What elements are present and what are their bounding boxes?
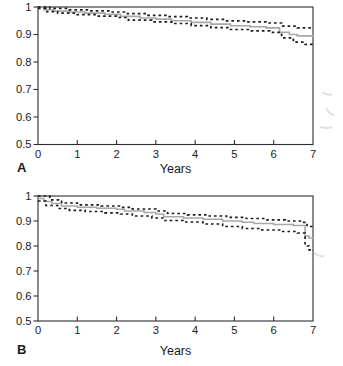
panel-a-xaxis-title: Years: [38, 162, 313, 176]
panel-b-y-tick-label: 0.5: [16, 315, 32, 327]
panel-a-x-tick-label: 5: [231, 148, 237, 160]
panel-b-x-tick-label: 5: [231, 324, 237, 336]
panel-b-y-tick-label: 0.8: [16, 240, 32, 252]
panel-b-survival-estimate-line: [38, 199, 313, 240]
panel-b-y-tick-label: 0.6: [16, 290, 32, 302]
panel-a-x-tick-label: 4: [192, 148, 198, 160]
panel-a-y-tick-label: 0.7: [16, 83, 32, 95]
panel-b-x-tick-label: 1: [74, 324, 80, 336]
panel-b-x-tick-label: 3: [153, 324, 159, 336]
panel-a-upper-confidence-limit-line: [38, 7, 313, 28]
panel-b-frame: [38, 196, 313, 321]
panel-b-y-tick-label: 1: [25, 190, 31, 202]
panel-b-y-tick-label: 0.9: [16, 215, 32, 227]
panel-a-x-tick-label: 6: [271, 148, 277, 160]
panel-a-y-tick-label: 0.6: [16, 111, 32, 123]
panel-a-x-tick-label: 1: [74, 148, 80, 160]
panel-b-x-tick-label: 2: [113, 324, 119, 336]
panel-b-x-tick-label: 7: [310, 324, 316, 336]
panel-a-y-tick-label: 1: [25, 1, 31, 13]
survival-charts: 10.90.80.70.60.50123456710.90.80.70.60.5…: [0, 0, 343, 366]
scan-artifact: [326, 108, 334, 115]
panel-a-x-tick-label: 2: [113, 148, 119, 160]
panel-b-label: B: [17, 343, 26, 357]
panel-b-xaxis-title: Years: [38, 344, 313, 358]
panel-b-x-tick-label: 0: [35, 324, 41, 336]
km-figure: 10.90.80.70.60.50123456710.90.80.70.60.5…: [0, 0, 343, 366]
panel-b-chart: 10.90.80.70.60.501234567: [16, 190, 316, 336]
panel-b-x-tick-label: 6: [271, 324, 277, 336]
panel-a-x-tick-label: 7: [310, 148, 316, 160]
panel-b-y-tick-label: 0.7: [16, 265, 32, 277]
scan-artifact: [320, 127, 332, 128]
panel-a-y-tick-label: 0.5: [16, 138, 32, 150]
panel-b-x-tick-label: 4: [192, 324, 198, 336]
panel-a-x-tick-label: 0: [35, 148, 41, 160]
panel-b-upper-confidence-limit-line: [38, 196, 313, 227]
panel-a-chart: 10.90.80.70.60.501234567: [16, 1, 316, 160]
panel-b-lower-confidence-limit-line: [38, 201, 313, 251]
panel-a-y-tick-label: 0.9: [16, 28, 32, 40]
scan-artifact: [314, 253, 324, 256]
panel-a-lower-confidence-limit-line: [38, 8, 313, 45]
scan-artifact: [322, 92, 332, 95]
panel-a-x-tick-label: 3: [153, 148, 159, 160]
panel-a-y-tick-label: 0.8: [16, 56, 32, 68]
panel-a-label: A: [17, 161, 26, 175]
